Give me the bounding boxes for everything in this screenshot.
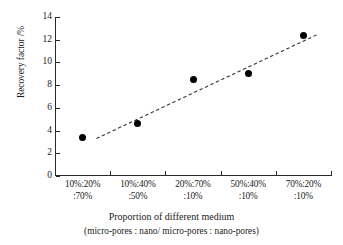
data-point <box>245 70 252 77</box>
y-tick-label: 10 <box>43 56 53 67</box>
y-tick-label: 14 <box>43 11 53 22</box>
x-tick-label-line1: 50%:40% <box>231 179 266 189</box>
data-point <box>300 32 307 39</box>
x-tick-label: 70%:20%:10% <box>271 178 335 202</box>
x-tick-label-line1: 10%:40% <box>120 179 155 189</box>
y-axis-title: Recovery factor /% <box>16 0 26 127</box>
data-point <box>79 134 86 141</box>
y-tick-label: 6 <box>47 102 52 113</box>
x-tick-label-line1: 70%:20% <box>286 179 321 189</box>
y-tick-0: 0 <box>56 176 60 177</box>
x-axis-title: Proportion of different medium (micro-po… <box>0 210 343 238</box>
x-tick-label-line1: 10%:20% <box>65 179 100 189</box>
data-point <box>190 76 197 83</box>
plot-area: 02468101214 <box>55 17 331 176</box>
trendline <box>55 17 331 176</box>
trendline-segment <box>96 35 317 139</box>
y-tick-label: 8 <box>47 79 52 90</box>
x-tick-label-line1: 20%:70% <box>175 179 210 189</box>
y-tick-label: 4 <box>47 125 52 136</box>
x-axis-tick-labels: 10%:20%:70%10%:40%:50%20%:70%:10%50%:40%… <box>55 178 331 210</box>
y-tick-label: 2 <box>47 147 52 158</box>
chart-figure: Recovery factor /% 02468101214 10%:20%:7… <box>0 0 343 245</box>
x-tick-label-line2: :10% <box>271 190 335 202</box>
x-axis-title-sub: (micro-pores : nano/ micro-pores : nano-… <box>0 224 343 238</box>
x-axis-title-main: Proportion of different medium <box>109 211 235 222</box>
x-tick <box>331 171 332 176</box>
y-tick-label: 12 <box>43 34 53 45</box>
